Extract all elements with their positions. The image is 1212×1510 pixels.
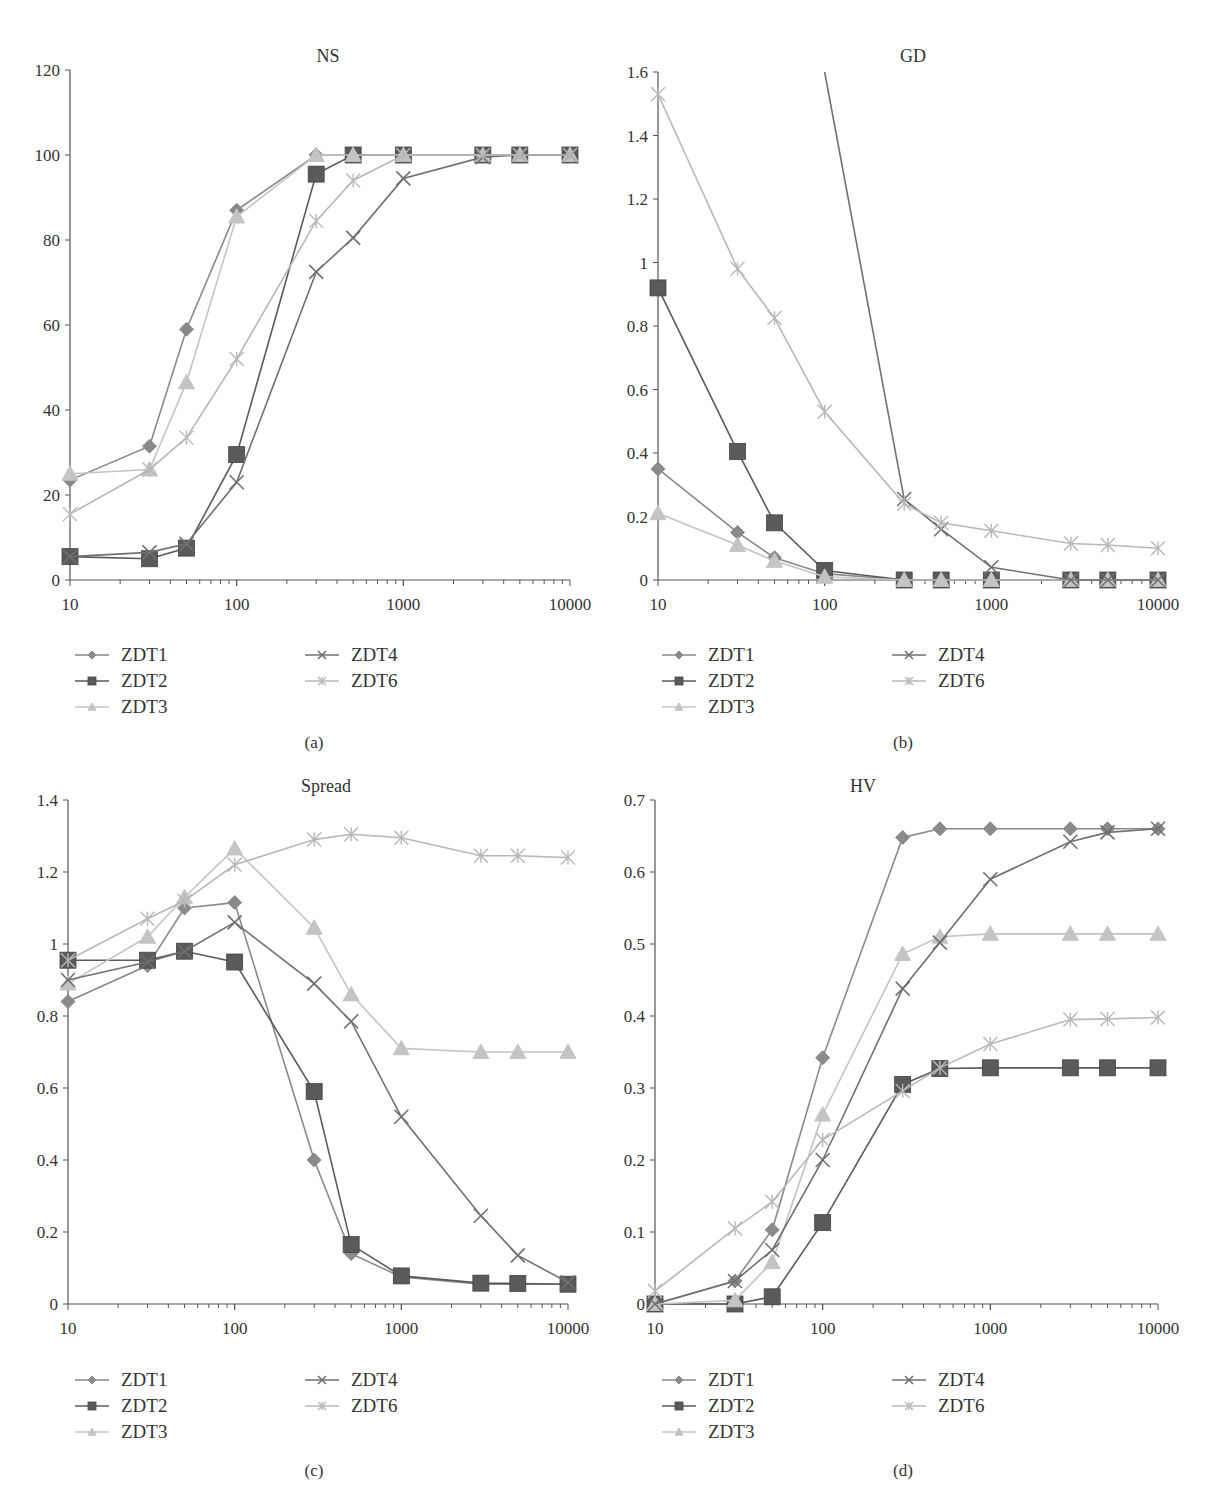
panel-label-b: (b) [893,733,913,752]
legend-item-zdt1: ZDT1 [662,644,754,665]
y-tick-label: 0 [637,1295,646,1314]
legend-label: ZDT3 [708,696,754,717]
data-point-marker [227,841,243,855]
plot-area [650,72,1166,588]
data-point-marker [228,896,242,910]
legend-item-zdt2: ZDT2 [662,1395,754,1416]
legend-marker [675,651,683,659]
plot-area [647,822,1166,1312]
data-point-marker [344,1014,358,1028]
plot-area [60,827,576,1292]
series-zdt2 [62,147,578,567]
x-tick-label: 10 [62,595,79,614]
legend-label: ZDT1 [121,644,167,665]
data-point-marker [346,231,360,245]
series-zdt3 [60,841,576,1059]
data-point-marker [473,1275,489,1291]
legend-label: ZDT6 [351,1395,397,1416]
data-point-marker [474,1209,488,1223]
data-point-marker [764,1289,780,1305]
legend-item-zdt3: ZDT3 [75,696,167,717]
axes: 00.20.40.60.811.21.41.610100100010000 [627,63,1180,614]
data-point-marker [818,405,832,419]
legend-item-zdt3: ZDT3 [662,1421,754,1442]
legend-item-zdt4: ZDT4 [305,1369,398,1390]
legend-item-zdt4: ZDT4 [892,1369,985,1390]
y-tick-label: 1 [640,254,649,273]
data-point-marker [983,872,997,886]
series-zdt4 [825,72,1165,587]
data-point-marker [394,1110,408,1124]
legend-label: ZDT6 [351,670,397,691]
y-tick-label: 0.2 [624,1151,645,1170]
data-point-marker [1062,1060,1078,1076]
y-tick-label: 0.2 [37,1223,58,1242]
y-tick-label: 0.8 [627,317,648,336]
data-point-marker [309,214,323,228]
y-tick-label: 0 [50,1295,59,1314]
data-point-marker [1063,822,1077,836]
legend-label: ZDT2 [121,670,167,691]
legend-item-zdt6: ZDT6 [892,670,984,691]
data-point-marker [511,1248,525,1262]
plot-area [62,147,578,567]
data-point-marker [815,1215,831,1231]
legend-label: ZDT6 [938,670,984,691]
data-point-marker [396,171,410,185]
chart-title: HV [850,776,876,796]
axes: 02040608010012010100100010000 [35,61,592,614]
data-point-marker [896,830,910,844]
data-point-marker [648,1284,662,1298]
axes: 00.10.20.30.40.50.60.710100100010000 [624,791,1180,1338]
legend-item-zdt2: ZDT2 [75,670,167,691]
legend-a: ZDT1ZDT2ZDT3ZDT4ZDT6 [75,644,398,717]
legend-item-zdt6: ZDT6 [305,670,397,691]
data-point-marker [179,322,193,336]
legend-item-zdt1: ZDT1 [662,1369,754,1390]
data-point-marker [343,1237,359,1253]
series-zdt6 [63,148,577,521]
legend-label: ZDT1 [121,1369,167,1390]
legend-marker [88,677,96,685]
legend-label: ZDT3 [708,1421,754,1442]
data-point-marker [731,262,745,276]
legend-item-zdt6: ZDT6 [892,1395,984,1416]
x-tick-label: 100 [222,1319,248,1338]
legend-item-zdt2: ZDT2 [662,670,754,691]
chart-hv: HV 00.10.20.30.40.50.60.710100100010000 [624,776,1180,1338]
legend-d: ZDT1ZDT2ZDT3ZDT4ZDT6 [662,1369,985,1442]
legend-label: ZDT1 [708,644,754,665]
data-point-marker [229,447,245,463]
data-point-marker [228,915,242,929]
legend-marker [88,1376,96,1384]
y-tick-label: 1 [50,935,59,954]
legend-item-zdt1: ZDT1 [75,1369,167,1390]
axes: 00.20.40.60.811.21.410100100010000 [37,791,590,1338]
data-point-marker [1063,835,1077,849]
data-point-marker [307,977,321,991]
series-zdt6 [61,827,575,967]
x-tick-label: 100 [812,595,838,614]
legend-item-zdt3: ZDT3 [75,1421,167,1442]
series-zdt4 [63,148,577,564]
x-tick-label: 10000 [547,1319,590,1338]
legend-label: ZDT2 [708,670,754,691]
x-tick-label: 10000 [1137,1319,1180,1338]
legend-item-zdt4: ZDT4 [892,644,985,665]
legend-label: ZDT2 [708,1395,754,1416]
legend-c: ZDT1ZDT2ZDT3ZDT4ZDT6 [75,1369,398,1442]
data-point-marker [816,1133,830,1147]
y-tick-label: 0.1 [624,1223,645,1242]
y-tick-label: 0 [640,571,649,590]
y-tick-label: 0.7 [624,791,646,810]
x-tick-label: 1000 [973,1319,1007,1338]
legend-label: ZDT2 [121,1395,167,1416]
data-point-marker [816,1153,830,1167]
legend-marker [88,651,96,659]
data-point-marker [728,1221,742,1235]
data-point-marker [983,1037,997,1051]
y-tick-label: 40 [43,401,60,420]
data-point-marker [230,352,244,366]
y-tick-label: 0.4 [624,1007,646,1026]
data-point-marker [816,1051,830,1065]
